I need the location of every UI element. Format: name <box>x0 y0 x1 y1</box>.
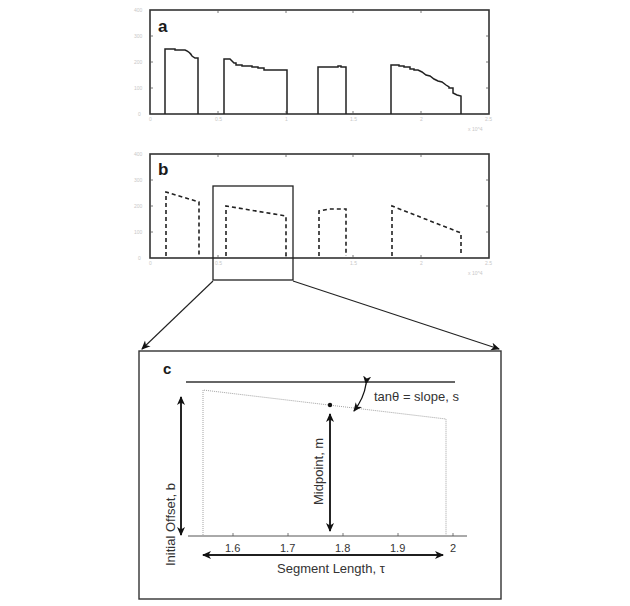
length-annotation: Segment Length, τ <box>277 561 386 576</box>
x-tick: 2.5 <box>485 260 492 266</box>
panel-b-data <box>166 192 461 256</box>
x-tick: 1 <box>285 116 288 122</box>
panel-a-data <box>165 49 461 114</box>
x-tick: 2 <box>450 542 456 554</box>
y-tick: 0 <box>138 255 141 261</box>
midpoint-dot <box>328 403 332 407</box>
slope-angle-arrow <box>354 384 366 411</box>
panel-a-label: a <box>158 17 168 36</box>
x-tick: 1.8 <box>335 542 350 554</box>
panel-b-label: b <box>158 160 168 179</box>
zoom-region-box <box>213 186 293 280</box>
slope-annotation: tanθ = slope, s <box>374 389 459 404</box>
x-tick: 0.5 <box>215 116 222 122</box>
x-tick: 0 <box>149 116 152 122</box>
x-tick: 1.7 <box>280 542 295 554</box>
x-multiplier: x 10^4 <box>468 126 483 132</box>
y-tick: 0 <box>138 111 141 117</box>
y-tick: 200 <box>134 203 143 209</box>
panel-a-frame <box>150 10 489 114</box>
x-tick: 1.5 <box>350 260 357 266</box>
panel-b: b 0 100 200 300 400 0 0.5 1.5 2 2.5 x 10… <box>134 151 492 280</box>
x-multiplier: x 10^4 <box>468 270 483 276</box>
y-tick: 200 <box>134 59 143 65</box>
offset-annotation: Initial Offset, b <box>163 483 178 566</box>
panel-b-ticks <box>150 154 489 258</box>
midpoint-annotation: Midpoint, m <box>311 438 326 505</box>
figure-canvas: a 0 100 200 300 400 0 0.5 1 1.5 2 2.5 x … <box>0 0 630 606</box>
x-tick: 2 <box>420 260 423 266</box>
y-tick: 300 <box>134 177 143 183</box>
y-tick: 400 <box>134 151 143 157</box>
x-tick: 2.5 <box>485 116 492 122</box>
x-tick: 2 <box>420 116 423 122</box>
panel-a: a 0 100 200 300 400 0 0.5 1 1.5 2 2.5 x … <box>134 7 492 132</box>
y-tick: 400 <box>134 7 143 13</box>
y-tick: 100 <box>134 229 143 235</box>
panel-a-y-ticks <box>150 10 489 114</box>
x-tick: 1.5 <box>350 116 357 122</box>
panel-b-frame <box>150 154 489 258</box>
x-tick: 1.6 <box>225 542 240 554</box>
x-tick: 0.5 <box>215 260 222 266</box>
y-tick: 300 <box>134 33 143 39</box>
zoom-connectors <box>142 281 499 349</box>
x-tick: 1.9 <box>390 542 405 554</box>
panel-c-label: c <box>163 360 171 377</box>
x-tick: 0 <box>149 260 152 266</box>
y-tick: 100 <box>134 85 143 91</box>
panel-c: c tanθ = slope, s Initial Offset, b Midp… <box>139 351 501 599</box>
